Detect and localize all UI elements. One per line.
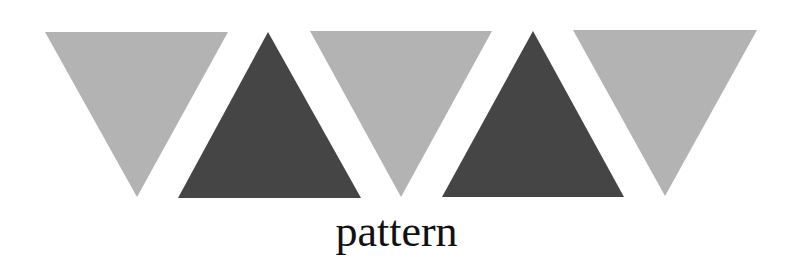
caption-text: pattern	[0, 206, 793, 258]
